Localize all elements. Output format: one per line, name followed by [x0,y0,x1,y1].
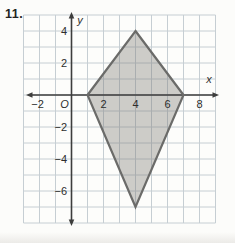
x-tick-label: 2 [100,98,106,110]
origin-label: O [60,98,69,110]
textbook-figure: 11. −2246842−2−4−6Oxy [0,0,235,243]
y-tick-label: 4 [61,25,67,37]
x-tick-label: 6 [164,98,170,110]
x-axis-label: x [205,73,212,85]
y-tick-label: −6 [54,185,67,197]
y-tick-label: 2 [61,57,67,69]
x-tick-label: 8 [196,98,202,110]
x-tick-label: −2 [31,98,44,110]
y-tick-label: −4 [54,153,67,165]
coordinate-grid-figure: −2246842−2−4−6Oxy [0,0,235,243]
x-tick-label: 4 [132,98,138,110]
y-tick-label: −2 [54,121,67,133]
